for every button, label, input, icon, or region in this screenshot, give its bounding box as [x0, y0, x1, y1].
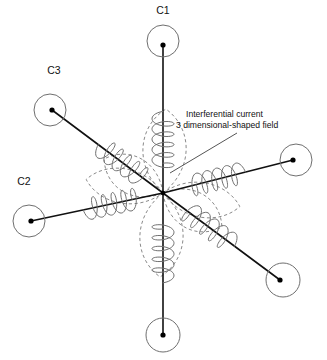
electrode-axis-c2-opposite: [163, 160, 293, 193]
electrode-dot-c3-opposite: [277, 277, 282, 282]
annotation-leader-line: [170, 133, 237, 173]
electrode-coils-group: [83, 111, 245, 282]
field-lobe-lobe-down: [140, 193, 183, 277]
electrode-circle-c3-opposite[interactable]: [266, 263, 300, 297]
electrode-dot-c2-opposite: [290, 157, 295, 162]
field-lobe-lobe-lower-right: [163, 189, 222, 232]
annotation-line-1: Interferential current: [186, 109, 264, 119]
electrode-dot-c1-opposite: [160, 332, 165, 337]
diagram-root: C1C3C2 Interferential current 3 dimensio…: [0, 0, 327, 360]
electrode-labels-group: C1C3C2: [17, 4, 170, 187]
electrode-dot-c3: [49, 107, 54, 112]
electrode-label-c2: C2: [17, 175, 31, 187]
electrode-axis-c3-opposite: [163, 193, 280, 280]
electrode-circle-c2-opposite[interactable]: [280, 144, 312, 176]
electrode-label-c1: C1: [156, 4, 170, 16]
interferential-field-diagram: C1C3C2 Interferential current 3 dimensio…: [0, 0, 327, 360]
electrode-dot-c1: [160, 42, 165, 47]
field-lobe-lobe-left: [86, 168, 163, 204]
electrode-axis-c3: [52, 110, 163, 193]
annotation-line-2: 3 dimensional-shaped field: [176, 120, 278, 130]
electrode-label-c3: C3: [47, 64, 61, 76]
electrode-dot-c2: [28, 218, 33, 223]
field-center-point: [161, 191, 166, 196]
